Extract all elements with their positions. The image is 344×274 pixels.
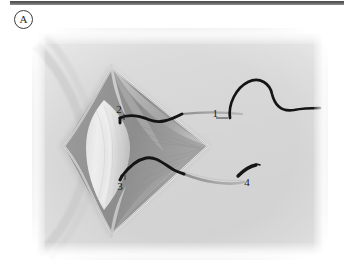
callout-label-1: 1 bbox=[213, 107, 219, 119]
callout-label-2: 2 bbox=[116, 103, 122, 115]
surgical-illustration: 1 2 3 4 bbox=[32, 28, 328, 260]
needle-tip bbox=[254, 164, 260, 165]
header-rule bbox=[10, 1, 344, 5]
panel-label-a: A bbox=[14, 10, 33, 29]
illustration-canvas: 1 2 3 4 bbox=[32, 28, 328, 260]
callout-label-4: 4 bbox=[244, 176, 250, 188]
callout-label-3: 3 bbox=[117, 180, 123, 192]
